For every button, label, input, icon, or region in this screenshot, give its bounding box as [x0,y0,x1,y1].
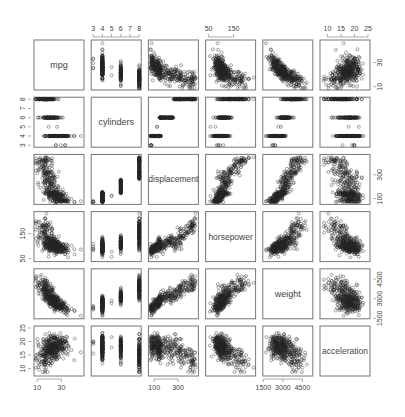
tick-label: 10 [324,25,332,32]
tick-label: 8 [19,97,26,101]
variable-label: cylinders [98,117,134,127]
tick-label: 25 [364,25,372,32]
tick-label: 50 [205,25,213,32]
panel-displacement-vs-acceleration [320,154,370,204]
tick-label: 3 [91,25,95,32]
tick-label: 30 [58,384,66,391]
panel-cylinders-vs-displacement [148,97,198,147]
panel-acceleration-vs-horsepower [206,326,256,376]
variable-label: mpg [50,60,68,70]
tick-label: 150 [228,25,240,32]
tick-label: 1500 [376,310,383,326]
tick-label: 5 [110,25,114,32]
panel-cylinders-vs-horsepower [206,97,256,147]
panel-weight-vs-mpg [34,269,84,319]
panel-cylinders-vs-cylinders: cylinders [91,97,141,147]
tick-label: 6 [119,25,123,32]
tick-label: 6 [19,116,26,120]
panel-mpg-vs-horsepower [206,40,256,90]
panel-displacement-vs-weight [263,154,313,204]
tick-label: 4500 [376,271,383,287]
tick-label: 7 [19,106,26,110]
panel-acceleration-vs-acceleration: acceleration [320,326,370,376]
tick-label: 150 [19,228,26,240]
panel-mpg-vs-cylinders [91,40,141,90]
panel-acceleration-vs-displacement [148,326,198,376]
tick-label: 3000 [275,384,291,391]
panels: mpgcylindersdisplacementhorsepowerweight… [34,40,370,376]
panel-horsepower-vs-mpg [34,212,84,262]
tick-label: 4500 [295,384,311,391]
tick-label: 30 [376,59,383,67]
panel-horsepower-vs-acceleration [320,212,370,262]
variable-label: horsepower [208,232,253,242]
tick-label: 20 [19,338,26,346]
panel-horsepower-vs-displacement [148,212,198,262]
tick-label: 1500 [256,384,272,391]
panel-mpg-vs-mpg: mpg [34,40,84,90]
panel-mpg-vs-displacement [148,40,198,90]
panel-acceleration-vs-weight [263,326,313,376]
tick-label: 20 [351,25,359,32]
tick-label: 10 [19,365,26,373]
scatterplot-matrix: mpgcylindersdisplacementhorsepowerweight… [0,0,405,417]
tick-label: 15 [19,351,26,359]
panel-cylinders-vs-mpg [34,97,84,147]
variable-label: weight [274,289,302,299]
tick-label: 100 [148,384,160,391]
tick-label: 10 [376,83,383,91]
tick-label: 4 [100,25,104,32]
tick-label: 100 [376,193,383,205]
panel-acceleration-vs-mpg [34,326,84,376]
tick-label: 5 [19,125,26,129]
tick-label: 8 [137,25,141,32]
panel-weight-vs-horsepower [206,269,256,319]
axes: 3456785015010152025103010030015003000450… [19,25,383,391]
panel-acceleration-vs-cylinders [91,326,141,376]
panel-mpg-vs-acceleration [320,40,370,90]
variable-label: displacement [148,174,199,184]
panel-cylinders-vs-acceleration [320,97,370,147]
tick-label: 7 [128,25,132,32]
tick-label: 15 [337,25,345,32]
panel-horsepower-vs-cylinders [91,212,141,262]
tick-label: 300 [376,169,383,181]
panel-displacement-vs-cylinders [91,154,141,204]
tick-label: 3 [19,143,26,147]
panel-horsepower-vs-weight [263,212,313,262]
panel-weight-vs-acceleration [320,269,370,319]
panel-horsepower-vs-horsepower: horsepower [206,212,256,262]
panel-mpg-vs-weight [263,40,313,90]
panel-displacement-vs-displacement: displacement [148,154,199,204]
panel-weight-vs-cylinders [91,269,141,319]
tick-label: 50 [19,255,26,263]
tick-label: 3000 [376,291,383,307]
panel-weight-vs-displacement [148,269,198,319]
tick-label: 25 [19,324,26,332]
tick-label: 10 [33,384,41,391]
variable-label: acceleration [322,346,368,356]
panel-weight-vs-weight: weight [263,269,313,319]
panel-cylinders-vs-weight [263,97,313,147]
tick-label: 300 [172,384,184,391]
panel-displacement-vs-mpg [34,154,84,204]
panel-displacement-vs-horsepower [206,154,256,204]
tick-label: 4 [19,134,26,138]
